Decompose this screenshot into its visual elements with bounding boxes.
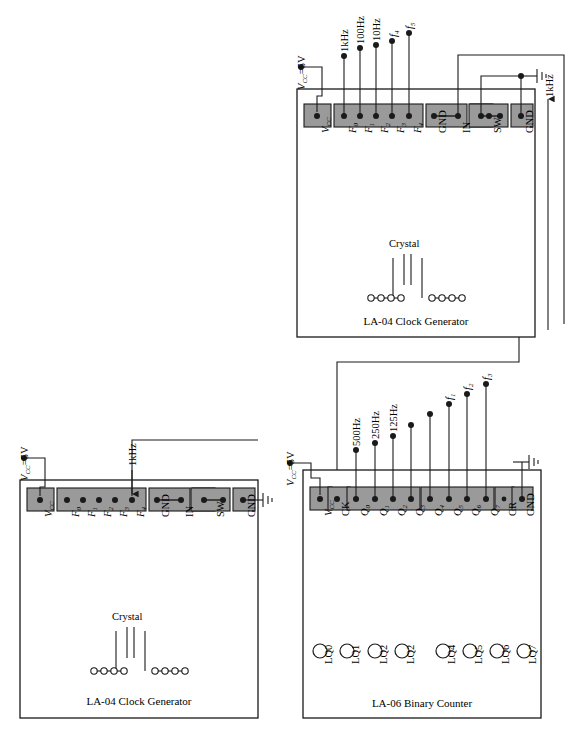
led-label-7: LQ7 [528, 645, 539, 664]
pin-label-q2: Q2 [397, 505, 409, 516]
led-label-3: LQ2 [406, 645, 417, 664]
pin-label-sw-bottom: SW [216, 501, 227, 517]
pin-label-q3: Q3 [415, 505, 427, 516]
circuit-diagram: VCC=5V 1kHz 100Hz 10Hz f4 f5 VCC F0 F1 F… [0, 0, 576, 733]
led-label-0: LQ0 [324, 645, 335, 664]
clock-top-supply-label: VCC=5V [297, 55, 309, 90]
pin-label-f2-bottom: F2 [103, 507, 115, 517]
signal-label-f4: f4 [389, 31, 401, 37]
signal-label-250hz: 250Hz [371, 411, 382, 439]
signal-label-f1: f1 [445, 394, 457, 400]
pin-label-gnd-counter: GND [526, 493, 537, 516]
pin-label-vcc-top: VCC [321, 117, 333, 133]
pin-label-vcc-counter: VCC [324, 500, 336, 516]
signal-label-1khz-top: 1kHz [340, 29, 351, 52]
pin-label-q1: Q1 [379, 505, 391, 516]
diagram-canvas [0, 0, 576, 733]
pin-label-f1-bottom: F1 [87, 507, 99, 517]
signal-label-500hz: 500Hz [352, 418, 363, 446]
led-label-2: LQ2 [379, 645, 390, 664]
output-label-1khz-top: 1kHz [545, 74, 556, 97]
signal-label-100hz: 100Hz [356, 16, 367, 44]
pin-label-cr: CR [508, 502, 519, 516]
clock-bottom-supply-label: VCC=5V [20, 446, 32, 481]
clock-bottom-caption: LA‐04 Clock Generator [20, 695, 258, 707]
pin-label-f0-top: F0 [348, 123, 360, 133]
pin-label-gnd2-bottom: GND [247, 494, 258, 517]
pin-label-f1-top: F1 [364, 123, 376, 133]
signal-label-f5: f5 [405, 23, 417, 29]
signal-label-f2: f2 [463, 384, 475, 390]
led-label-5: LQ5 [474, 645, 485, 664]
led-label-6: LQ6 [501, 645, 512, 664]
pin-label-gnd2-top: GND [525, 110, 536, 133]
pin-label-q0: Q0 [360, 505, 372, 516]
pin-label-f3-top: F3 [396, 123, 408, 133]
pin-label-gnd1-bottom: GND [161, 494, 172, 517]
pin-label-ck: CK [341, 501, 352, 516]
pin-label-q4: Q4 [434, 505, 446, 516]
pin-label-f4-top: F4 [413, 123, 425, 133]
counter-supply-label: VCC=5V [286, 451, 298, 486]
pin-label-f2-top: F2 [380, 123, 392, 133]
pin-label-q7: Q7 [490, 505, 502, 516]
pin-label-vcc-bottom: VCC [44, 501, 56, 517]
input-label-1khz-bottom: 1kHz [128, 443, 139, 466]
led-label-1: LQ1 [351, 645, 362, 664]
led-label-4: LQ4 [447, 645, 458, 664]
pin-label-sw-top: SW [493, 117, 504, 133]
signal-label-f3: f3 [482, 374, 494, 380]
clock-top-crystal-label: Crystal [389, 238, 419, 249]
clock-bottom-crystal-label: Crystal [112, 611, 142, 622]
clock-top-caption: LA‐04 Clock Generator [297, 315, 535, 327]
counter-caption: LA‐06 Binary Counter [303, 697, 541, 709]
pin-label-q5: Q5 [453, 505, 465, 516]
pin-label-f3-bottom: F3 [119, 507, 131, 517]
pin-label-f4-bottom: F4 [136, 507, 148, 517]
signal-label-10hz: 10Hz [372, 18, 383, 41]
signal-label-125hz: 125Hz [389, 404, 400, 432]
pin-label-f0-bottom: F0 [71, 507, 83, 517]
pin-label-gnd1-top: GND [438, 110, 449, 133]
pin-label-in-bottom: IN [185, 506, 196, 517]
clock-to-counter-wire [334, 337, 519, 483]
pin-label-q6: Q6 [471, 505, 483, 516]
pin-label-in-top: IN [462, 122, 473, 133]
